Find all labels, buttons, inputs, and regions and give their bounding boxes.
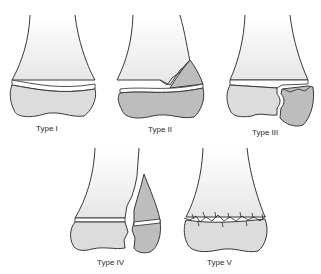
epiphysis [227,85,280,117]
fracture-diagram [0,0,321,274]
physis-line-left [75,218,125,222]
metaphysis-shaft [75,148,139,218]
bone-type-4 [71,148,161,253]
fracture-fragment [132,174,161,253]
bone-type-2 [117,15,204,118]
epiphysis [71,222,128,250]
metaphysis-shaft [186,148,265,217]
metaphysis-shaft [230,15,308,80]
label-type-5: Type V [207,258,232,267]
epiphyseal-fragment [280,86,314,126]
label-type-4: Type IV [97,258,124,267]
bone-type-1 [10,15,95,117]
metaphysis-shaft [12,15,95,80]
label-type-3: Type III [252,128,278,137]
bone-type-5 [184,148,267,252]
label-type-2: Type II [148,125,172,134]
epiphysis [118,88,204,118]
bone-type-3 [227,15,314,126]
label-type-1: Type I [36,124,58,133]
epiphysis [184,219,267,252]
